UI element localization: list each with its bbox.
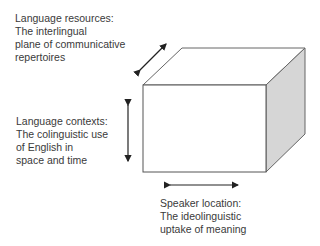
cube bbox=[143, 48, 305, 172]
depth-arrow bbox=[140, 44, 166, 70]
cube-front-face bbox=[143, 85, 266, 172]
cube-diagram bbox=[0, 0, 320, 246]
